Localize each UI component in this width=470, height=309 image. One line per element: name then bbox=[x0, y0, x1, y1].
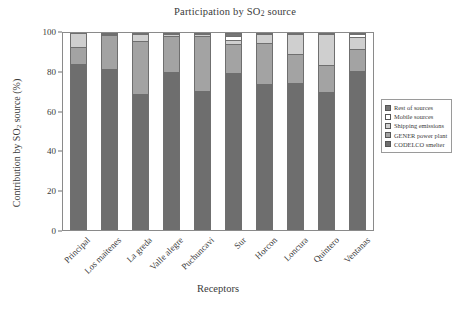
bar-quintero[interactable] bbox=[318, 33, 335, 230]
bar-la-greda[interactable] bbox=[132, 33, 149, 230]
bar-segment bbox=[319, 34, 334, 65]
legend-item-label: CODELCO smelter bbox=[394, 140, 445, 149]
bar-segment bbox=[133, 41, 148, 93]
bar-segment bbox=[71, 47, 86, 64]
legend-item[interactable]: Shipping emissions bbox=[385, 121, 447, 130]
x-axis: PrincipalLos maitenesLa gredaValle alegr… bbox=[62, 231, 374, 289]
y-axis-tick-label: 40 bbox=[47, 146, 56, 156]
bar-segment bbox=[226, 44, 241, 73]
bar-segment bbox=[71, 64, 86, 230]
bar-los-maitenes[interactable] bbox=[101, 33, 118, 230]
bar-puchuncavi[interactable] bbox=[194, 33, 211, 230]
bar-segment bbox=[71, 33, 86, 47]
bar-segment bbox=[288, 54, 303, 83]
bar-segment bbox=[102, 69, 117, 230]
bar-segment bbox=[350, 71, 365, 230]
bar-segment bbox=[257, 34, 272, 43]
bar-ventanas[interactable] bbox=[349, 33, 366, 230]
chart-legend: Rest of sourcesMobile sourcesShipping em… bbox=[381, 99, 452, 153]
legend-item[interactable]: Mobile sources bbox=[385, 112, 447, 121]
bar-segment bbox=[350, 49, 365, 72]
legend-swatch-icon bbox=[385, 105, 391, 111]
bar-segment bbox=[102, 35, 117, 69]
y-axis-tick-label: 100 bbox=[43, 27, 57, 37]
legend-swatch-icon bbox=[385, 141, 391, 147]
x-axis-label: Receptors bbox=[62, 283, 374, 294]
chart-title: Participation by SO2 source bbox=[0, 6, 470, 18]
legend-swatch-icon bbox=[385, 132, 391, 138]
chart-title-main: Participation by SO bbox=[174, 6, 261, 17]
bar-loncura[interactable] bbox=[287, 33, 304, 230]
legend-item[interactable]: GENER power plant bbox=[385, 131, 447, 140]
y-axis-label-main: Contribution by SO bbox=[11, 128, 22, 207]
y-axis-label-tail: source (%) bbox=[11, 79, 22, 125]
chart-title-tail: source bbox=[265, 6, 296, 17]
bar-segment bbox=[164, 36, 179, 72]
bar-segment bbox=[195, 36, 210, 91]
legend-item-label: Rest of sources bbox=[394, 103, 433, 112]
bar-segment bbox=[226, 73, 241, 230]
legend-item-label: GENER power plant bbox=[394, 131, 447, 140]
bar-principal[interactable] bbox=[70, 33, 87, 230]
bar-segment bbox=[288, 83, 303, 230]
legend-item-label: Shipping emissions bbox=[394, 121, 444, 130]
legend-item[interactable]: Rest of sources bbox=[385, 103, 447, 112]
bar-segment bbox=[195, 91, 210, 230]
bar-segment bbox=[319, 65, 334, 91]
bar-segment bbox=[257, 43, 272, 84]
legend-item[interactable]: CODELCO smelter bbox=[385, 140, 447, 149]
y-axis-tick-label: 0 bbox=[52, 226, 57, 236]
bar-segment bbox=[164, 72, 179, 230]
y-axis-label: Contribution by SO2 source (%) bbox=[11, 48, 23, 238]
legend-swatch-icon bbox=[385, 114, 391, 120]
chart-figure: Participation by SO2 source Contribution… bbox=[0, 0, 470, 309]
bar-segment bbox=[133, 94, 148, 230]
y-axis-tick-label: 60 bbox=[47, 107, 56, 117]
plot-area bbox=[62, 32, 374, 231]
bar-sur[interactable] bbox=[225, 33, 242, 230]
y-axis: Contribution by SO2 source (%) 020406080… bbox=[0, 32, 62, 231]
bar-segment bbox=[350, 37, 365, 49]
bar-segment bbox=[288, 34, 303, 54]
legend-swatch-icon bbox=[385, 123, 391, 129]
y-axis-tick-label: 80 bbox=[47, 67, 56, 77]
legend-item-label: Mobile sources bbox=[394, 112, 433, 121]
bar-segment bbox=[319, 92, 334, 230]
y-axis-label-subscript: 2 bbox=[15, 125, 23, 129]
bar-segment bbox=[133, 34, 148, 41]
bar-group bbox=[63, 33, 373, 230]
y-axis-tick-label: 20 bbox=[47, 186, 56, 196]
bar-valle-alegre[interactable] bbox=[163, 33, 180, 230]
bar-horcon[interactable] bbox=[256, 33, 273, 230]
bar-segment bbox=[257, 84, 272, 230]
